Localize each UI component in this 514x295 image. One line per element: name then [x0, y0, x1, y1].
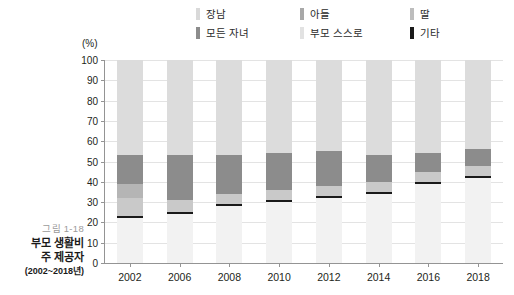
bar-segment: [465, 149, 491, 165]
bar-2014[interactable]: [366, 60, 392, 263]
y-gridline: [105, 162, 503, 163]
x-tick-label: 2006: [168, 271, 191, 283]
bar-2018[interactable]: [465, 60, 491, 263]
y-gridline: [105, 202, 503, 203]
y-tick-mark: [101, 101, 105, 102]
legend-row-1: 장남 아들 딸: [196, 4, 496, 23]
x-tick-label: 2016: [417, 271, 440, 283]
bar-segment: [117, 198, 143, 216]
y-tick-mark: [101, 243, 105, 244]
bar-2016[interactable]: [415, 60, 441, 263]
bar-segment: [167, 60, 193, 155]
legend-swatch-jangnam: [196, 8, 200, 20]
bar-segment: [216, 206, 242, 263]
y-tick-mark: [101, 222, 105, 223]
y-tick-label: 90: [87, 75, 98, 86]
y-gridline: [105, 243, 503, 244]
bar-segment: [117, 184, 143, 198]
y-tick-mark: [101, 162, 105, 163]
legend-label-ttal: 딸: [420, 8, 430, 20]
x-tick-mark: [329, 263, 330, 267]
bar-segment: [366, 194, 392, 263]
plot-area: 1009080706050403020100200220062008201020…: [104, 60, 503, 264]
bar-segment: [316, 198, 342, 263]
y-tick-label: 50: [87, 156, 98, 167]
legend-row-2: 모든 자녀 부모 스스로 기타: [196, 23, 496, 42]
y-tick-mark: [101, 141, 105, 142]
bar-2012[interactable]: [316, 60, 342, 263]
legend-item-gita: 기타: [410, 23, 496, 42]
legend-swatch-gita: [410, 27, 414, 39]
y-gridline: [105, 101, 503, 102]
x-tick-mark: [279, 263, 280, 267]
chart-legend: 장남 아들 딸 모든 자녀 부모 스스로 기타: [196, 4, 496, 44]
x-tick-mark: [428, 263, 429, 267]
legend-swatch-ttal: [410, 8, 414, 20]
chart-page: 장남 아들 딸 모든 자녀 부모 스스로 기타: [0, 0, 514, 295]
y-gridline: [105, 141, 503, 142]
x-tick-label: 2014: [367, 271, 390, 283]
legend-label-modeun-janyeo: 모든 자녀: [206, 27, 249, 39]
bar-segment: [117, 218, 143, 263]
y-tick-mark: [101, 202, 105, 203]
bar-segment: [167, 155, 193, 200]
y-gridline: [105, 80, 503, 81]
x-tick-mark: [379, 263, 380, 267]
legend-swatch-modeun-janyeo: [196, 27, 200, 39]
y-gridline: [105, 121, 503, 122]
y-tick-mark: [101, 60, 105, 61]
bar-segment: [366, 155, 392, 181]
legend-swatch-bumo-seuseuro: [300, 27, 304, 39]
y-gridline: [105, 60, 503, 61]
figure-number: 그림 1-18: [0, 222, 84, 236]
y-tick-label: 100: [81, 55, 98, 66]
y-tick-mark: [101, 263, 105, 264]
figure-caption: 그림 1-18 부모 생활비 주 제공자 (2002~2018년): [0, 222, 84, 278]
bar-segment: [167, 200, 193, 212]
y-tick-mark: [101, 121, 105, 122]
bar-segment: [216, 194, 242, 204]
y-tick-label: 60: [87, 136, 98, 147]
x-tick-label: 2012: [317, 271, 340, 283]
bar-2006[interactable]: [167, 60, 193, 263]
legend-item-modeun-janyeo: 모든 자녀: [196, 23, 300, 42]
x-tick-mark: [180, 263, 181, 267]
bar-segment: [117, 155, 143, 183]
bar-segment: [366, 182, 392, 192]
bar-segment: [415, 172, 441, 182]
bar-segment: [216, 60, 242, 155]
bar-2002[interactable]: [117, 60, 143, 263]
bar-segment: [266, 202, 292, 263]
bar-segment: [167, 214, 193, 263]
legend-label-jangnam: 장남: [206, 8, 226, 20]
legend-label-bumo-seuseuro: 부모 스스로: [310, 27, 363, 39]
figure-year-range: (2002~2018년): [0, 264, 84, 278]
y-axis-unit: (%): [82, 38, 98, 49]
legend-item-adeul: 아들: [300, 4, 410, 23]
y-tick-mark: [101, 182, 105, 183]
y-tick-mark: [101, 80, 105, 81]
figure-title-line2: 주 제공자: [0, 250, 84, 264]
bar-segment: [465, 166, 491, 176]
y-gridline: [105, 182, 503, 183]
bar-segment: [415, 153, 441, 171]
bar-segment: [266, 153, 292, 190]
bar-segment: [415, 60, 441, 153]
bar-segment: [117, 60, 143, 155]
bar-segment: [216, 155, 242, 194]
y-tick-label: 70: [87, 115, 98, 126]
bar-segment: [465, 178, 491, 263]
bar-segment: [465, 60, 491, 149]
bar-2008[interactable]: [216, 60, 242, 263]
y-tick-label: 20: [87, 217, 98, 228]
bar-segment: [266, 60, 292, 153]
bar-segment: [316, 186, 342, 196]
x-tick-label: 2010: [267, 271, 290, 283]
x-tick-mark: [229, 263, 230, 267]
x-tick-label: 2002: [118, 271, 141, 283]
y-tick-label: 30: [87, 197, 98, 208]
legend-label-adeul: 아들: [310, 8, 330, 20]
bar-segment: [316, 151, 342, 186]
legend-label-gita: 기타: [420, 27, 440, 39]
bar-2010[interactable]: [266, 60, 292, 263]
